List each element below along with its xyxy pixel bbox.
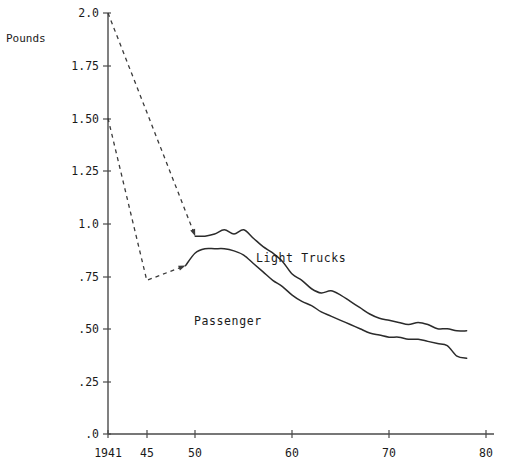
series-annotation-light-trucks: Light Trucks <box>256 251 346 265</box>
series-path-light-trucks-lead-in <box>108 13 195 236</box>
y-tick-label-0-50: .50 <box>78 322 99 336</box>
y-tick-label-2-0: 2.0 <box>78 6 99 20</box>
y-axis-title: Pounds <box>6 32 46 45</box>
x-tick-label-70: 70 <box>382 446 396 460</box>
x-tick-label-45: 45 <box>140 446 154 460</box>
x-tick-label-1941: 1941 <box>94 446 122 460</box>
lead-in-arrowhead-3 <box>178 266 185 271</box>
y-tick-label-1-75: 1.75 <box>71 59 99 73</box>
x-tick-label-80: 80 <box>479 446 493 460</box>
x-tick-label-50: 50 <box>188 446 202 460</box>
series-path-passenger-lead-in <box>108 118 186 280</box>
series-annotation-passenger: Passenger <box>194 314 262 328</box>
y-axis-tick-labels: 2.0 1.75 1.50 1.25 1.0 .75 .50 .25 .0 <box>71 6 99 441</box>
y-tick-label-1-50: 1.50 <box>71 112 99 126</box>
y-tick-label-0-25: .25 <box>78 375 99 389</box>
y-tick-label-0-0: .0 <box>85 427 99 441</box>
lead-in-arrowhead-1 <box>190 229 195 236</box>
chart-container: Pounds 2.0 1.75 1.50 1.25 1.0 .75 .50 .2… <box>0 0 509 468</box>
y-tick-label-1-0: 1.0 <box>78 217 99 231</box>
y-axis-ticks <box>103 13 111 434</box>
series-layer <box>108 13 467 358</box>
y-tick-label-1-25: 1.25 <box>71 164 99 178</box>
x-tick-label-60: 60 <box>285 446 299 460</box>
line-chart: Pounds 2.0 1.75 1.50 1.25 1.0 .75 .50 .2… <box>0 0 509 468</box>
y-tick-label-0-75: .75 <box>78 270 99 284</box>
x-axis-tick-labels: 1941 45 50 60 70 80 <box>94 446 493 460</box>
